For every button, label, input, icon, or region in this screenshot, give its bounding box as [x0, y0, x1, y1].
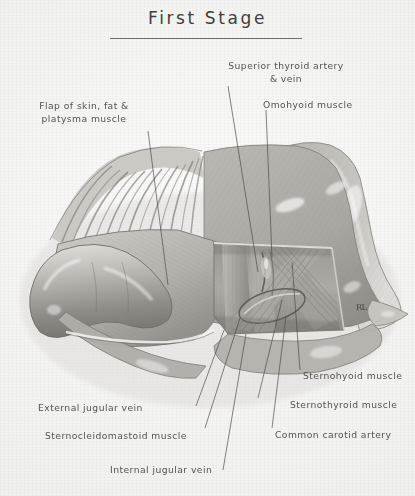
label-line-1: Superior thyroid artery — [216, 60, 356, 73]
strap-muscle-group — [210, 240, 350, 340]
illustration-plate: First Stage Superior thyroid artery & ve… — [0, 0, 415, 496]
label-line-2: & vein — [216, 73, 356, 86]
label-line-1: Flap of skin, fat & — [14, 100, 154, 113]
label-common-carotid-artery: Common carotid artery — [275, 429, 391, 442]
label-omohyoid-muscle: Omohyoid muscle — [263, 99, 353, 112]
label-sternocleidomastoid-muscle: Sternocleidomastoid muscle — [45, 430, 187, 443]
artist-signature: RL — [356, 303, 367, 313]
label-line-2: platysma muscle — [14, 113, 154, 126]
title-underline — [110, 38, 302, 39]
label-external-jugular-vein: External jugular vein — [38, 402, 143, 415]
label-superior-thyroid-artery-vein: Superior thyroid artery & vein — [216, 60, 356, 85]
label-sternothyroid-muscle: Sternothyroid muscle — [290, 399, 397, 412]
label-flap-of-skin-fat-platysma: Flap of skin, fat & platysma muscle — [14, 100, 154, 125]
roll-specular — [47, 305, 61, 315]
page-title: First Stage — [0, 8, 415, 28]
lateral-tip-highlight — [381, 311, 395, 317]
label-sternohyoid-muscle: Sternohyoid muscle — [303, 370, 402, 383]
label-internal-jugular-vein: Internal jugular vein — [110, 464, 212, 477]
